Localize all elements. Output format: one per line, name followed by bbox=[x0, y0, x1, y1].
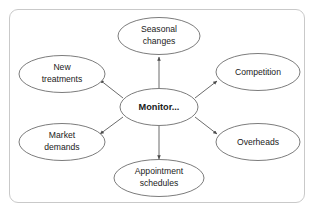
spider-diagram: Seasonal changes New treatments Market d… bbox=[0, 0, 317, 215]
node-new-treatments-label-line2: treatments bbox=[42, 74, 83, 84]
node-competition[interactable]: Competition bbox=[216, 54, 300, 91]
node-appointment-schedules-label-line1: Appointment bbox=[135, 166, 184, 176]
node-overheads[interactable]: Overheads bbox=[216, 124, 300, 161]
node-monitor-center[interactable]: Monitor... bbox=[120, 89, 198, 126]
node-market-demands-label-line1: Market bbox=[49, 130, 76, 140]
node-seasonal-changes-label-line2: changes bbox=[143, 36, 176, 46]
node-appointment-schedules[interactable]: Appointment schedules bbox=[114, 160, 204, 197]
node-competition-label-line1: Competition bbox=[235, 67, 281, 77]
node-monitor-center-label: Monitor... bbox=[139, 102, 180, 112]
node-overheads-label-line1: Overheads bbox=[237, 137, 279, 147]
connector-to-market-demands bbox=[100, 117, 123, 134]
node-new-treatments-label-line1: New bbox=[53, 62, 71, 72]
node-seasonal-changes[interactable]: Seasonal changes bbox=[118, 18, 200, 55]
node-new-treatments[interactable]: New treatments bbox=[19, 56, 105, 93]
node-market-demands-label-line2: demands bbox=[44, 142, 79, 152]
connector-to-overheads bbox=[195, 117, 217, 134]
node-market-demands[interactable]: Market demands bbox=[19, 124, 105, 161]
node-seasonal-changes-label-line1: Seasonal bbox=[141, 24, 177, 34]
connector-to-competition bbox=[195, 81, 217, 98]
connector-to-new-treatments bbox=[100, 80, 123, 98]
node-appointment-schedules-label-line2: schedules bbox=[140, 178, 179, 188]
